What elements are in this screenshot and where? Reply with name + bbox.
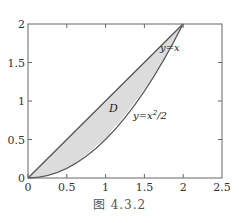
chart: 0 0.5 1 1.5 2 2.5 0 0.5 1 1.5 2 y=x D y=… <box>0 0 239 223</box>
label-region-d: D <box>108 102 118 115</box>
y-tick-label: 1.5 <box>8 57 26 70</box>
y-tick-label: 2 <box>18 18 25 31</box>
x-tick-label: 0.5 <box>58 181 76 194</box>
x-tick-label: 0 <box>25 181 32 194</box>
y-tick-label: 0.5 <box>8 134 26 147</box>
label-y-equals-x: y=x <box>159 42 180 53</box>
y-tick-label: 1 <box>18 95 25 108</box>
x-tick-label: 1 <box>102 181 109 194</box>
x-tick-label: 1.5 <box>136 181 154 194</box>
figure-caption: 图 4.3.2 <box>0 195 239 212</box>
label-y-equals-x-squared-over-2: y=x2/2 <box>132 109 167 121</box>
y-tick-label: 0 <box>18 172 25 185</box>
x-tick-label: 2 <box>180 181 187 194</box>
x-tick-label: 2.5 <box>213 181 231 194</box>
